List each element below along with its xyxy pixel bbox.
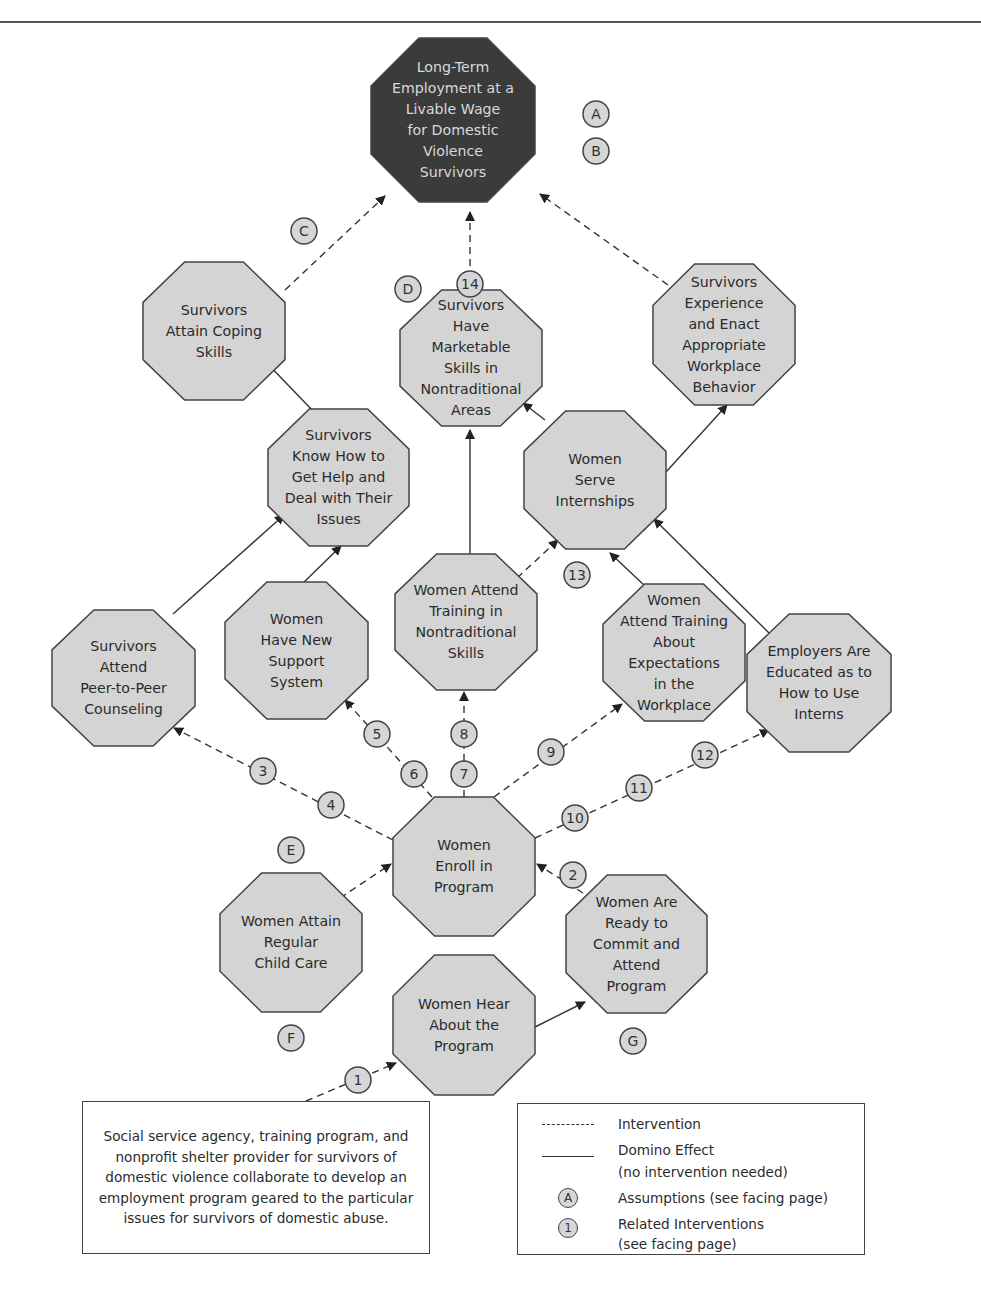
source-collaboration-box: Social service agency, training program,… [82, 1101, 430, 1254]
assumption-badge-c: C [291, 218, 317, 244]
node-label-line: Regular [264, 934, 319, 950]
outcome-node-employers: Employers AreEducated as toHow to UseInt… [747, 614, 891, 752]
node-label-line: Nontraditional [415, 624, 516, 640]
intervention-arrow [340, 864, 391, 898]
node-label-line: Women [568, 451, 621, 467]
badge-label: 8 [460, 726, 469, 742]
node-label-line: Educated as to [766, 664, 872, 680]
node-label-line: Attain Coping [166, 323, 262, 339]
legend-sublabel: (no intervention needed) [618, 1162, 788, 1182]
node-label-line: in the [654, 676, 695, 692]
octagon-shape [747, 614, 891, 752]
intervention-badge-1: 1 [345, 1067, 371, 1093]
node-label-line: Commit and [593, 936, 680, 952]
badge-label: 1 [354, 1072, 363, 1088]
node-label-line: How to Use [779, 685, 860, 701]
octagon-shape [52, 610, 195, 746]
legend-label: Assumptions (see facing page) [618, 1188, 828, 1208]
outcome-node-hear: Women HearAbout theProgram [393, 955, 535, 1095]
intervention-badge-10: 10 [562, 805, 588, 831]
node-label-line: Long-Term [417, 59, 490, 75]
outcome-node-training-expect: WomenAttend TrainingAboutExpectationsin … [603, 584, 745, 721]
node-label-line: Interns [794, 706, 843, 722]
node-label-line: Have New [261, 632, 333, 648]
intervention-badge-8: 8 [451, 721, 477, 747]
intervention-arrow [540, 194, 668, 285]
outcome-node-child-care: Women AttainRegularChild Care [220, 873, 362, 1012]
node-label-line: Get Help and [292, 469, 385, 485]
octagon-shape [225, 582, 368, 719]
badge-label: D [403, 281, 414, 297]
node-label-line: Women [647, 592, 700, 608]
outcome-node-workplace-behavior: SurvivorsExperienceand EnactAppropriateW… [653, 264, 795, 405]
node-label-line: Program [434, 879, 494, 895]
node-label-line: Women [437, 837, 490, 853]
node-label-line: Areas [451, 402, 491, 418]
badge-label: 3 [259, 763, 268, 779]
badge-label: G [628, 1033, 639, 1049]
badge-label: 4 [327, 797, 336, 813]
assumption-badge-b: B [583, 138, 609, 164]
badge-label: 12 [696, 747, 714, 763]
node-label-line: Violence [423, 143, 483, 159]
badge-label: 6 [410, 766, 419, 782]
badge-label: C [299, 223, 309, 239]
octagon-shape [395, 554, 537, 690]
outcome-node-ready: Women AreReady toCommit andAttendProgram [566, 875, 707, 1013]
assumption-badge-e: E [278, 837, 304, 863]
intervention-badge-11: 11 [626, 775, 652, 801]
domino-effect-arrow [523, 403, 545, 420]
node-label-line: About [653, 634, 695, 650]
node-label-line: Attend [100, 659, 147, 675]
intervention-badge-14: 14 [457, 271, 483, 297]
badge-label: A [591, 106, 601, 122]
node-label-line: Livable Wage [406, 101, 501, 117]
node-label-line: Have [453, 318, 490, 334]
badge-label: 9 [547, 744, 556, 760]
node-label-line: Know How to [292, 448, 385, 464]
badge-label: E [287, 842, 296, 858]
badge-label: 11 [630, 780, 648, 796]
node-label-line: Women [270, 611, 323, 627]
outcome-node-peer-counseling: SurvivorsAttendPeer-to-PeerCounseling [52, 610, 195, 746]
node-label-line: Workplace [687, 358, 761, 374]
intervention-badge-2: 2 [560, 862, 586, 888]
badge-label: 5 [373, 726, 382, 742]
node-label-line: Survivors [305, 427, 371, 443]
legend-box: Intervention Domino Effect (no intervent… [517, 1103, 865, 1255]
outcome-node-marketable: SurvivorsHaveMarketableSkills inNontradi… [400, 290, 542, 426]
badge-label: 14 [461, 276, 479, 292]
outcome-node-internships: WomenServeInternships [524, 411, 666, 549]
node-label-line: Workplace [637, 697, 711, 713]
node-label-line: Ready to [605, 915, 668, 931]
badge-label: 13 [568, 567, 586, 583]
node-label-line: Enroll in [435, 858, 492, 874]
intervention-badge-5: 5 [364, 721, 390, 747]
outcome-node-training-nontrad: Women AttendTraining inNontraditionalSki… [395, 554, 537, 690]
intervention-badge-3: 3 [250, 758, 276, 784]
node-label-line: Peer-to-Peer [80, 680, 167, 696]
node-label-line: Training in [428, 603, 502, 619]
outcome-node-know-help: SurvivorsKnow How toGet Help andDeal wit… [268, 409, 409, 546]
node-label-line: Expectations [628, 655, 720, 671]
intervention-badge-7: 7 [451, 761, 477, 787]
solid-line-icon [538, 1140, 598, 1160]
node-label-line: Women Are [596, 894, 678, 910]
node-label-line: Nontraditional [420, 381, 521, 397]
legend-sublabel: (see facing page) [618, 1234, 737, 1254]
node-label-line: Women Hear [418, 996, 510, 1012]
node-label-line: Employment at a [392, 80, 514, 96]
outcome-node-goal: Long-TermEmployment at aLivable Wagefor … [371, 38, 535, 202]
nodes-layer: Long-TermEmployment at aLivable Wagefor … [52, 38, 891, 1095]
node-label-line: Women Attend [413, 582, 518, 598]
node-label-line: Survivors [181, 302, 247, 318]
assumption-badge-a: A [583, 101, 609, 127]
outcome-node-coping: SurvivorsAttain CopingSkills [143, 262, 285, 400]
badge-label: F [287, 1030, 295, 1046]
node-label-line: Survivors [438, 297, 504, 313]
node-label-line: Women Attain [241, 913, 341, 929]
node-label-line: About the [429, 1017, 499, 1033]
outcome-node-support-system: WomenHave NewSupportSystem [225, 582, 368, 719]
node-label-line: Counseling [84, 701, 163, 717]
node-label-line: Marketable [431, 339, 510, 355]
